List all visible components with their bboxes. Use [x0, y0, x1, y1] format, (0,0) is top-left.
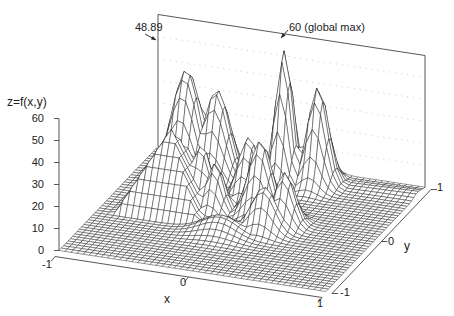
surface-mesh — [59, 51, 425, 292]
z-tick-40: 40 — [14, 157, 44, 168]
z-tick-20: 20 — [14, 201, 44, 212]
y-axis-label: y — [404, 240, 410, 252]
surface-plot — [0, 0, 454, 316]
z-tick-10: 10 — [14, 223, 44, 234]
z-tick-0: 0 — [14, 245, 44, 256]
y-tick-minus1: -1 — [340, 287, 350, 298]
annotation-global-max: 60 (global max) — [289, 22, 365, 33]
x-axis-label: x — [164, 293, 170, 305]
y-tick-0: 0 — [388, 236, 394, 247]
y-tick-1: 1 — [437, 182, 443, 193]
z-tick-30: 30 — [14, 179, 44, 190]
x-tick-0: 0 — [180, 277, 186, 288]
z-tick-60: 60 — [14, 113, 44, 124]
z-axis-label: z=f(x,y) — [7, 96, 47, 108]
annotation-local-max: 48.89 — [135, 22, 163, 33]
z-tick-50: 50 — [14, 135, 44, 146]
x-tick-1: 1 — [317, 298, 323, 309]
x-tick-minus1: -1 — [42, 259, 52, 270]
